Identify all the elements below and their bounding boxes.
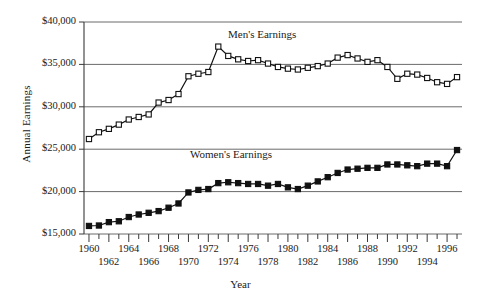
x-tick-label: 1972	[188, 243, 228, 254]
y-tick-label: $30,000	[0, 100, 76, 111]
data-point	[255, 58, 260, 63]
data-point	[295, 186, 300, 191]
x-tick-label: 1988	[348, 243, 388, 254]
data-point	[116, 219, 121, 224]
data-series	[86, 44, 459, 229]
x-tick-label: 1976	[228, 243, 268, 254]
y-tick-label: $40,000	[0, 15, 76, 26]
x-axis-title: Year	[0, 278, 481, 290]
data-point	[136, 212, 141, 217]
x-tick-label: 1996	[427, 243, 467, 254]
x-tick-label: 1964	[109, 243, 149, 254]
data-point	[355, 166, 360, 171]
data-point	[206, 69, 211, 74]
data-point	[295, 67, 300, 72]
data-point	[96, 223, 101, 228]
chart-container: Annual Earnings Year $40,000$35,000$30,0…	[0, 0, 481, 296]
data-point	[216, 44, 221, 49]
data-point	[186, 190, 191, 195]
data-point	[136, 114, 141, 119]
x-tick-label: 1968	[149, 243, 189, 254]
data-point	[156, 209, 161, 214]
data-point	[106, 126, 111, 131]
data-point	[176, 201, 181, 206]
data-point	[246, 58, 251, 63]
data-point	[454, 75, 459, 80]
x-tick-label: 1980	[268, 243, 308, 254]
data-point	[305, 183, 310, 188]
data-point	[454, 147, 459, 152]
data-point	[435, 80, 440, 85]
data-point	[365, 59, 370, 64]
data-point	[415, 164, 420, 169]
y-axis-title: Annual Earnings	[20, 54, 32, 194]
y-tick-label: $15,000	[0, 227, 76, 238]
y-tick-label: $35,000	[0, 57, 76, 68]
x-tick-label: 1966	[129, 256, 169, 267]
data-point	[335, 170, 340, 175]
data-point	[315, 64, 320, 69]
data-point	[86, 136, 91, 141]
data-point	[275, 64, 280, 69]
data-point	[385, 64, 390, 69]
data-point	[265, 61, 270, 66]
series-label-women: Women's Earnings	[190, 148, 272, 160]
data-point	[236, 57, 241, 62]
data-point	[126, 214, 131, 219]
x-tick-label: 1960	[69, 243, 109, 254]
data-point	[176, 91, 181, 96]
data-point	[395, 162, 400, 167]
data-point	[375, 165, 380, 170]
data-point	[425, 75, 430, 80]
x-tick-label: 1974	[208, 256, 248, 267]
gridlines	[84, 22, 462, 234]
data-point	[226, 180, 231, 185]
data-point	[116, 122, 121, 127]
x-tick-label: 1962	[89, 256, 129, 267]
data-point	[226, 53, 231, 58]
data-point	[246, 181, 251, 186]
data-point	[315, 179, 320, 184]
data-point	[156, 100, 161, 105]
x-tick-label: 1982	[288, 256, 328, 267]
data-point	[96, 130, 101, 135]
data-point	[275, 181, 280, 186]
data-point	[86, 223, 91, 228]
data-point	[265, 183, 270, 188]
data-point	[385, 162, 390, 167]
x-tick-label: 1990	[367, 256, 407, 267]
data-point	[166, 205, 171, 210]
data-point	[345, 167, 350, 172]
data-point	[425, 161, 430, 166]
data-point	[375, 58, 380, 63]
data-point	[146, 112, 151, 117]
x-tick-label: 1992	[387, 243, 427, 254]
axis-ticks	[79, 22, 457, 242]
data-point	[405, 71, 410, 76]
data-point	[325, 175, 330, 180]
x-tick-label: 1986	[328, 256, 368, 267]
data-point	[196, 71, 201, 76]
data-point	[106, 220, 111, 225]
data-point	[444, 81, 449, 86]
data-point	[255, 181, 260, 186]
x-tick-label: 1970	[168, 256, 208, 267]
x-tick-label: 1994	[407, 256, 447, 267]
data-point	[216, 181, 221, 186]
data-point	[415, 72, 420, 77]
data-point	[186, 74, 191, 79]
x-tick-label: 1978	[248, 256, 288, 267]
data-point	[305, 65, 310, 70]
data-point	[335, 55, 340, 60]
data-point	[444, 164, 449, 169]
data-point	[236, 181, 241, 186]
data-point	[355, 56, 360, 61]
y-tick-label: $20,000	[0, 185, 76, 196]
data-point	[206, 186, 211, 191]
data-point	[435, 161, 440, 166]
y-tick-label: $25,000	[0, 142, 76, 153]
data-point	[146, 210, 151, 215]
data-point	[365, 165, 370, 170]
data-point	[285, 66, 290, 71]
data-point	[285, 185, 290, 190]
